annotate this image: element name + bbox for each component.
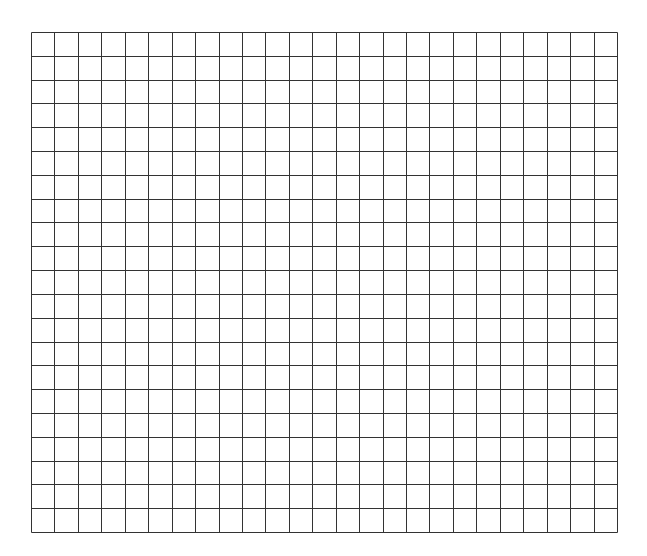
grid-canvas [0,0,647,556]
grid-lines [32,33,618,533]
blank-grid [0,0,647,556]
